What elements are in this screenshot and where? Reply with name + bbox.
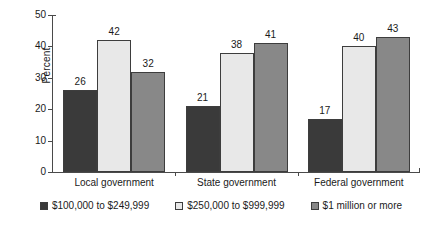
plot-area: 264232213841174043 [53,15,420,172]
legend-item-0: $100,000 to $249,999 [40,200,149,211]
bar-value-label: 26 [63,77,97,87]
bar-value-label: 17 [308,106,342,116]
y-tick-label-0: 0 [22,167,46,177]
legend-swatch-icon-0 [40,202,48,210]
chart-legend: $100,000 to $249,999$250,000 to $999,999… [0,200,442,211]
bar-value-label: 38 [220,40,254,50]
bar [376,37,410,172]
legend-swatch-icon-2 [311,202,319,210]
bar [97,40,131,172]
legend-label-0: $100,000 to $249,999 [52,200,149,211]
category-label-0: Local government [44,177,184,189]
bar-value-label: 43 [376,24,410,34]
y-tick-label-50: 50 [22,10,46,20]
bar [254,43,288,172]
y-tick-label-10: 10 [22,136,46,146]
category-label-2: Federal government [289,177,429,189]
bar-value-label: 42 [97,27,131,37]
bar [131,72,165,172]
bar-chart: Percent 01020304050 264232213841174043 L… [0,0,442,226]
y-tick-label-40: 40 [22,41,46,51]
y-tick-label-20: 20 [22,104,46,114]
x-axis-line [52,172,420,173]
y-axis-title: Percent [41,26,52,106]
bar-value-label: 21 [186,93,220,103]
bar-value-label: 32 [131,59,165,69]
bar [186,106,220,172]
bar [63,90,97,172]
bar-value-label: 41 [254,30,288,40]
bar [342,46,376,172]
bar-value-label: 40 [342,33,376,43]
legend-label-1: $250,000 to $999,999 [187,200,284,211]
group-separator-tick-2 [298,172,299,176]
group-separator-tick-1 [175,172,176,176]
y-tick-label-30: 30 [22,73,46,83]
bar [308,119,342,172]
bar [220,53,254,172]
legend-label-2: $1 million or more [323,200,402,211]
category-label-1: State government [167,177,307,189]
legend-item-1: $250,000 to $999,999 [175,200,284,211]
legend-swatch-icon-1 [175,202,183,210]
legend-item-2: $1 million or more [311,200,402,211]
